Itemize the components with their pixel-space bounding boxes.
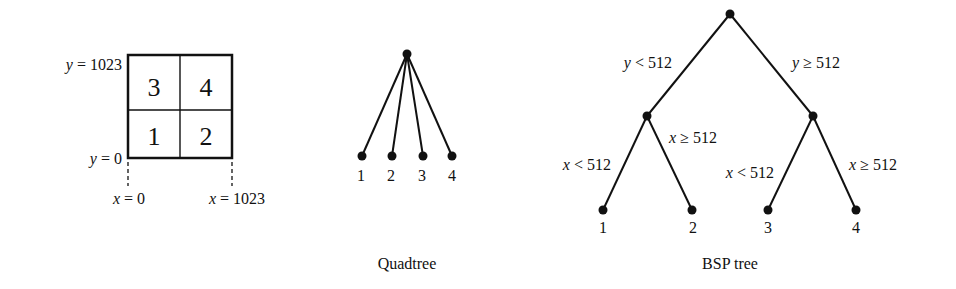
- bsp-leaf-node-1: [599, 206, 608, 215]
- y-bottom-label: y = 0: [88, 150, 122, 168]
- quadtree-leaf-label-2: 2: [387, 167, 395, 184]
- x-right-label: x = 1023: [208, 190, 265, 207]
- bsp-label-root-right: y ≥ 512: [790, 54, 840, 72]
- quadtree-leaf-node-3: [419, 152, 428, 161]
- quadtree-leaf-node-4: [448, 152, 457, 161]
- spatial-grid: 3 4 1 2 y = 1023 y = 0 x = 0 x = 1023: [64, 55, 265, 207]
- quadtree-diagram: 1 2 3 4 Quadtree: [357, 50, 457, 273]
- figure-canvas: 3 4 1 2 y = 1023 y = 0 x = 0 x = 1023 1 …: [0, 0, 956, 289]
- bsp-caption: BSP tree: [702, 255, 758, 272]
- grid-cell-2: 2: [200, 122, 213, 151]
- bsp-label-right-right: x ≥ 512: [848, 156, 897, 173]
- bsp-root-node: [726, 10, 735, 19]
- bsp-label-left-left: x < 512: [562, 156, 611, 173]
- quadtree-leaf-label-4: 4: [448, 167, 456, 184]
- quadtree-root-node: [403, 50, 412, 59]
- bsp-label-root-left: y < 512: [622, 54, 672, 72]
- bsp-leaf-label-4: 4: [852, 219, 860, 236]
- bsp-label-right-left: x < 512: [725, 164, 774, 181]
- quadtree-caption: Quadtree: [378, 255, 437, 272]
- bsp-leaf-node-3: [764, 206, 773, 215]
- bsp-right-node: [809, 112, 818, 121]
- quadtree-leaf-node-1: [358, 152, 367, 161]
- quadtree-edge-4: [407, 54, 452, 156]
- grid-cell-4: 4: [200, 73, 213, 102]
- bsp-leaf-node-4: [852, 206, 861, 215]
- y-top-label: y = 1023: [64, 56, 122, 74]
- bsp-leaf-label-3: 3: [764, 219, 772, 236]
- bsp-leaf-label-1: 1: [599, 219, 607, 236]
- grid-cell-3: 3: [148, 73, 161, 102]
- bsp-edge-right-left: [768, 116, 813, 210]
- bsp-leaf-node-2: [688, 206, 697, 215]
- bsp-label-left-right: x ≥ 512: [668, 129, 717, 146]
- bsp-leaf-label-2: 2: [689, 219, 697, 236]
- quadtree-leaf-label-3: 3: [418, 167, 426, 184]
- quadtree-leaf-node-2: [388, 152, 397, 161]
- bsp-left-node: [643, 112, 652, 121]
- quadtree-leaf-label-1: 1: [357, 167, 365, 184]
- bsp-tree-diagram: y < 512 y ≥ 512 x < 512 x ≥ 512 x < 512 …: [562, 10, 897, 273]
- x-left-label: x = 0: [112, 190, 145, 207]
- quadtree-edge-3: [407, 54, 423, 156]
- grid-cell-1: 1: [148, 122, 161, 151]
